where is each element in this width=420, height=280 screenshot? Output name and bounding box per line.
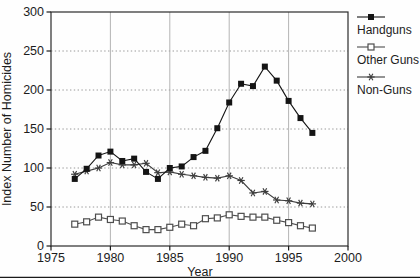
marker-other-guns — [119, 218, 125, 224]
y-axis-title: Index Number of Homicides — [0, 52, 14, 206]
y-tick-label: 250 — [23, 44, 44, 58]
gridlines — [51, 12, 348, 246]
y-tick-label: 300 — [23, 5, 44, 19]
y-tick-label: 50 — [30, 200, 44, 214]
marker-other-guns — [202, 216, 208, 222]
marker-other-guns — [309, 225, 315, 231]
marker-other-guns — [107, 216, 113, 222]
marker-other-guns — [226, 212, 232, 218]
marker-other-guns — [250, 214, 256, 220]
marker-handguns — [72, 176, 78, 182]
legend: Handguns Other Guns Non-Guns — [357, 14, 419, 97]
marker-other-guns — [262, 214, 268, 220]
marker-handguns — [214, 125, 220, 131]
y-tick-label: 100 — [23, 161, 44, 175]
series-non-guns — [71, 159, 316, 207]
y-tick-label: 150 — [23, 122, 44, 136]
marker-handguns — [96, 153, 102, 159]
marker-other-guns — [274, 217, 280, 223]
marker-other-guns — [96, 214, 102, 220]
legend-marker-handguns — [368, 14, 374, 20]
marker-handguns — [84, 166, 90, 172]
marker-handguns — [250, 83, 256, 89]
marker-other-guns — [167, 224, 173, 230]
legend-marker-other-guns — [368, 44, 374, 50]
legend-label-handguns: Handguns — [357, 23, 412, 37]
x-tick-label: 2000 — [334, 251, 362, 265]
marker-handguns — [286, 98, 292, 104]
marker-handguns — [238, 81, 244, 87]
axis-ticks — [47, 12, 349, 251]
marker-handguns — [131, 156, 137, 162]
marker-handguns — [155, 176, 161, 182]
marker-handguns — [179, 163, 185, 169]
marker-other-guns — [214, 215, 220, 221]
marker-handguns — [143, 169, 149, 175]
marker-other-guns — [179, 221, 185, 227]
chart-canvas: 0501001502002503001975198019851990199520… — [0, 0, 420, 280]
homicide-index-figure: 0501001502002503001975198019851990199520… — [0, 0, 420, 280]
legend-label-non-guns: Non-Guns — [357, 83, 412, 97]
marker-handguns — [226, 99, 232, 105]
x-tick-label: 1995 — [275, 251, 303, 265]
marker-handguns — [274, 78, 280, 84]
x-tick-label: 1990 — [215, 251, 243, 265]
x-tick-label: 1975 — [37, 251, 65, 265]
series-handguns — [72, 64, 316, 182]
marker-other-guns — [238, 213, 244, 219]
marker-handguns — [297, 115, 303, 121]
x-tick-label: 1980 — [96, 251, 124, 265]
marker-handguns — [309, 130, 315, 136]
marker-handguns — [119, 158, 125, 164]
marker-other-guns — [286, 220, 292, 226]
marker-other-guns — [143, 227, 149, 233]
marker-other-guns — [72, 221, 78, 227]
marker-handguns — [167, 165, 173, 171]
marker-other-guns — [131, 223, 137, 229]
x-tick-label: 1985 — [156, 251, 184, 265]
marker-other-guns — [155, 227, 161, 233]
marker-handguns — [202, 148, 208, 154]
marker-other-guns — [84, 219, 90, 225]
series-other-guns — [72, 212, 316, 233]
marker-other-guns — [297, 223, 303, 229]
marker-handguns — [107, 149, 113, 155]
legend-label-other-guns: Other Guns — [357, 53, 419, 67]
marker-handguns — [262, 64, 268, 70]
marker-other-guns — [191, 223, 197, 229]
y-tick-label: 200 — [23, 83, 44, 97]
marker-handguns — [191, 154, 197, 160]
